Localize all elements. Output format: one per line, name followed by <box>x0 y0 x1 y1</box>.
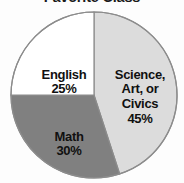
pie-label-english-value: 25% <box>26 82 102 97</box>
pie-chart-figure: Favorite Class Science, Art, or Civics 4… <box>0 0 184 183</box>
pie-label-math-value: 30% <box>36 144 102 159</box>
pie-label-english: English 25% <box>26 53 102 112</box>
pie-label-science-art-or-civics-name: Science, Art, or Civics <box>115 67 165 111</box>
pie-label-english-name: English <box>42 67 87 82</box>
pie-label-science-art-or-civics-value: 45% <box>104 112 176 127</box>
pie-label-math: Math 30% <box>36 115 102 174</box>
pie-label-science-art-or-civics: Science, Art, or Civics 45% <box>104 53 176 141</box>
pie-label-math-name: Math <box>54 129 83 144</box>
